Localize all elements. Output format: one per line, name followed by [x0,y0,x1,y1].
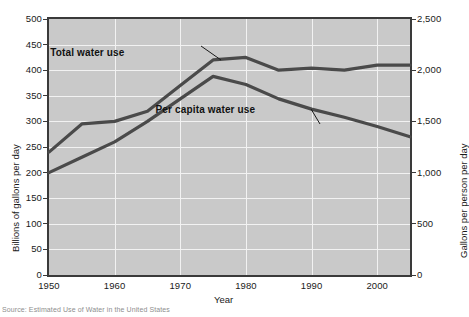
leader-line-total [201,46,221,60]
x-tick-label: 1960 [92,280,138,291]
y-tick-label-left: 350 [2,90,42,101]
x-tick-label: 2000 [354,280,400,291]
y-tick-label-left: 450 [2,39,42,50]
y-tick-label-left: 300 [2,115,42,126]
source-note: Source: Estimated Use of Water in the Un… [2,306,170,313]
x-tick-label: 1980 [223,280,269,291]
y-tick-label-right: 0 [417,269,422,280]
x-tick-label: 1990 [289,280,335,291]
y-tick-label-left: 50 [2,243,42,254]
y-tick-label-right: 2,000 [417,64,441,75]
y-tick-label-left: 250 [2,141,42,152]
y-tick-label-left: 100 [2,218,42,229]
x-tick-label: 1950 [26,280,72,291]
series-label-per-capita-water-use: Per capita water use [156,104,256,115]
plot-area: Total water use Per capita water use [47,17,412,277]
x-tick-label: 1970 [157,280,203,291]
y-tick-label-right: 1,000 [417,167,441,178]
y-tick-label-right: 500 [417,218,433,229]
y-axis-title-right: Gallons per person per day [458,143,469,258]
series-label-total-water-use: Total water use [50,47,124,58]
leader-line-per-capita [311,109,320,124]
y-tick-label-left: 150 [2,192,42,203]
x-axis-title: Year [214,294,233,305]
y-tick-label-right: 2,500 [417,13,441,24]
y-tick-label-right: 1,500 [417,115,441,126]
y-tick-label-left: 400 [2,64,42,75]
y-tick-label-left: 0 [2,269,42,280]
y-tick-label-left: 500 [2,13,42,24]
y-tick-label-left: 200 [2,167,42,178]
